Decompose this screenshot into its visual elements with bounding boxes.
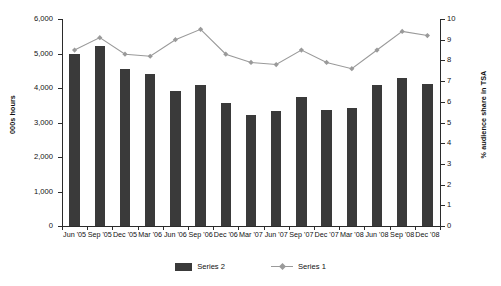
y-axis-right-tick-label: 4 bbox=[447, 139, 473, 147]
y-axis-right-tick-label: 0 bbox=[447, 222, 473, 230]
y-axis-right-tick bbox=[441, 102, 445, 103]
y-axis-left-tick-label: 2,000 bbox=[13, 153, 53, 161]
line-marker-1 bbox=[72, 47, 77, 52]
line-marker-8 bbox=[248, 60, 253, 65]
y-axis-right-tick bbox=[441, 123, 445, 124]
line-marker-10 bbox=[299, 47, 304, 52]
chart-legend: Series 2 Series 1 bbox=[0, 262, 501, 271]
y-axis-right-tick bbox=[441, 226, 445, 227]
y-axis-right-tick bbox=[441, 185, 445, 186]
y-axis-right-tick bbox=[441, 60, 445, 61]
y-axis-left-tick-label: 3,000 bbox=[13, 119, 53, 127]
line-diamond-swatch-icon bbox=[271, 263, 293, 271]
y-axis-right-tick-label: 2 bbox=[447, 181, 473, 189]
y-axis-right-tick bbox=[441, 81, 445, 82]
x-axis-line bbox=[62, 226, 441, 227]
chart-container: 000s hours % audience share in TSA 01,00… bbox=[0, 0, 501, 286]
legend-item-series-1: Series 1 bbox=[271, 262, 326, 271]
y-axis-right-tick-label: 5 bbox=[447, 119, 473, 127]
y-axis-left-tick-label: 4,000 bbox=[13, 84, 53, 92]
line-series-group bbox=[62, 19, 440, 226]
legend-label-series-1: Series 1 bbox=[298, 262, 326, 271]
y-axis-right-tick-label: 10 bbox=[447, 15, 473, 23]
plot-area: 01,0002,0003,0004,0005,0006,000012345678… bbox=[62, 19, 440, 226]
line-marker-15 bbox=[425, 33, 430, 38]
y-axis-right-tick-label: 7 bbox=[447, 77, 473, 85]
y-axis-right-tick bbox=[441, 143, 445, 144]
y-axis-right-tick bbox=[441, 19, 445, 20]
y-axis-right-tick bbox=[441, 205, 445, 206]
y-axis-right-tick-label: 6 bbox=[447, 98, 473, 106]
y-axis-right-tick-label: 1 bbox=[447, 201, 473, 209]
y-axis-right-tick bbox=[441, 40, 445, 41]
line-marker-9 bbox=[274, 62, 279, 67]
y-axis-left-tick-label: 0 bbox=[13, 222, 53, 230]
line-marker-11 bbox=[324, 60, 329, 65]
y-axis-right-tick-label: 3 bbox=[447, 160, 473, 168]
y-axis-right-title: % audience share in TSA bbox=[479, 30, 488, 200]
y-axis-left-tick-label: 5,000 bbox=[13, 50, 53, 58]
y-axis-left-tick-label: 6,000 bbox=[13, 15, 53, 23]
bar-swatch-icon bbox=[175, 263, 192, 271]
x-axis-label-15: Dec '08 bbox=[413, 230, 442, 239]
legend-item-series-2: Series 2 bbox=[175, 262, 225, 271]
y-axis-left-tick-label: 1,000 bbox=[13, 188, 53, 196]
legend-label-series-2: Series 2 bbox=[197, 262, 225, 271]
y-axis-right-tick-label: 9 bbox=[447, 36, 473, 44]
y-axis-right-tick-label: 8 bbox=[447, 56, 473, 64]
y-axis-right-tick bbox=[441, 164, 445, 165]
x-axis-tick-labels: Jun '05Sep '05Dec '05Mar '06Jun '06Sep '… bbox=[62, 230, 441, 244]
